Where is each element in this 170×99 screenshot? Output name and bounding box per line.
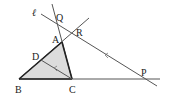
point-label-p: P	[141, 67, 147, 78]
point-label-c: C	[69, 84, 76, 95]
geometry-diagram: ℓ Q R A D B C P	[0, 0, 170, 99]
point-label-a: A	[52, 34, 60, 45]
point-label-r: R	[76, 27, 83, 38]
line-l-label: ℓ	[32, 7, 36, 18]
point-label-d: D	[32, 51, 39, 62]
point-label-q: Q	[56, 12, 64, 23]
point-label-b: B	[15, 84, 22, 95]
